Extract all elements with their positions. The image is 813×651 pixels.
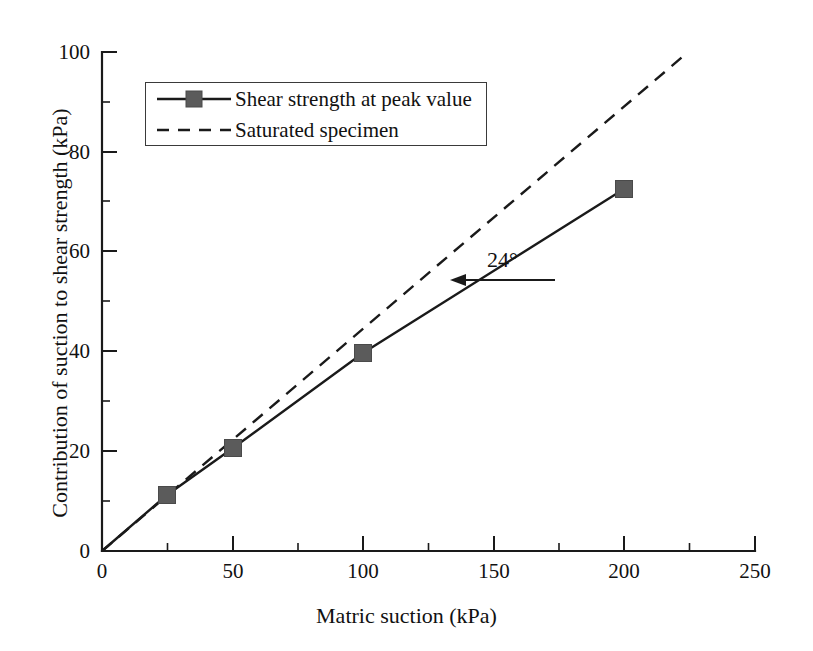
data-point-marker xyxy=(355,345,372,362)
legend-label: Saturated specimen xyxy=(235,120,399,141)
x-axis-title: Matric suction (kPa) xyxy=(0,603,813,629)
legend-item-saturated-specimen: Saturated specimen xyxy=(146,114,486,146)
x-axis-minor-ticks xyxy=(168,543,690,551)
dashed-line-icon xyxy=(155,117,233,143)
series-shear-strength-peak xyxy=(102,189,624,551)
data-point-marker xyxy=(616,181,633,198)
x-tick-label: 200 xyxy=(608,561,640,582)
data-point-marker xyxy=(225,440,242,457)
line-with-square-marker-icon xyxy=(155,86,233,112)
slope-angle-label: 24° xyxy=(487,249,518,271)
legend-item-shear-strength: Shear strength at peak value xyxy=(146,83,486,115)
x-tick-label: 50 xyxy=(223,561,244,582)
slope-angle-annotation xyxy=(450,274,555,286)
y-axis-minor-ticks xyxy=(102,102,110,501)
x-tick-label: 150 xyxy=(478,561,510,582)
legend-label: Shear strength at peak value xyxy=(235,89,472,110)
chart-legend: Shear strength at peak value Saturated s… xyxy=(145,82,487,146)
data-point-marker xyxy=(159,487,176,504)
x-tick-label: 250 xyxy=(739,561,771,582)
x-tick-label: 0 xyxy=(97,561,108,582)
chart-figure: 0 50 100 150 200 250 0 20 40 60 80 100 M… xyxy=(0,0,813,651)
x-tick-label: 100 xyxy=(347,561,379,582)
y-axis-title: Contribution of suction to shear strengt… xyxy=(47,53,73,573)
